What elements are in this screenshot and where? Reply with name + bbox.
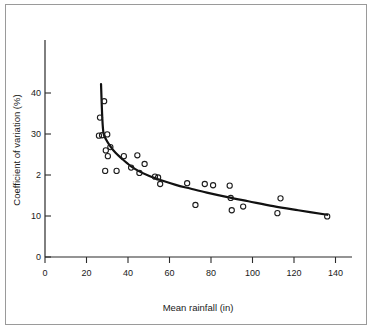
y-axis-ticks: 01023040: [31, 88, 51, 262]
x-tick-label: 120: [286, 268, 301, 278]
data-point: [103, 168, 108, 173]
data-point: [227, 183, 232, 188]
data-point: [278, 196, 283, 201]
data-point: [135, 153, 140, 158]
x-axis-title: Mean rainfall (in): [163, 302, 234, 313]
x-axis-ticks: 020406080100120140: [42, 257, 343, 278]
data-point: [241, 204, 246, 209]
y-tick-label: 10: [31, 211, 41, 221]
data-point: [158, 181, 163, 186]
x-tick-label: 20: [81, 268, 91, 278]
data-point: [142, 161, 147, 166]
data-points: [96, 99, 329, 219]
data-point: [275, 211, 280, 216]
data-point: [202, 181, 207, 186]
scatter-chart: 01023040 020406080100120140 Mean rainfal…: [0, 0, 373, 334]
y-tick-label: 0: [36, 252, 41, 262]
data-point: [229, 208, 234, 213]
axes: [45, 40, 352, 257]
data-point: [105, 132, 110, 137]
x-tick-label: 40: [123, 268, 133, 278]
y-tick-label: 30: [31, 129, 41, 139]
x-tick-label: 80: [206, 268, 216, 278]
figure-container: 01023040 020406080100120140 Mean rainfal…: [0, 0, 373, 334]
data-point: [193, 202, 198, 207]
x-tick-label: 60: [164, 268, 174, 278]
data-point: [114, 168, 119, 173]
fitted-curve: [101, 84, 327, 215]
x-tick-label: 140: [328, 268, 343, 278]
data-point: [105, 154, 110, 159]
data-point: [121, 154, 126, 159]
data-point: [185, 181, 190, 186]
y-tick-label: 2: [36, 170, 41, 180]
y-axis-title: Coefficient of variation (%): [11, 94, 22, 205]
x-tick-label: 100: [245, 268, 260, 278]
x-tick-label: 0: [42, 268, 47, 278]
y-tick-label: 40: [31, 88, 41, 98]
data-point: [210, 183, 215, 188]
